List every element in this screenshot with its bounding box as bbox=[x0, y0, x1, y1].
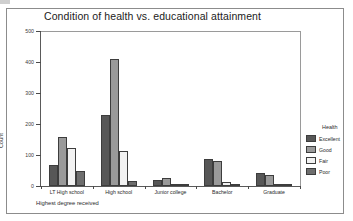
bars-layer bbox=[41, 31, 300, 186]
y-axis-tick-label: 500 bbox=[16, 28, 34, 34]
x-axis-tick bbox=[41, 186, 42, 189]
legend-label: Poor bbox=[319, 169, 330, 175]
bar bbox=[76, 171, 85, 187]
y-axis-tick-label: 100 bbox=[16, 152, 34, 158]
bar bbox=[101, 115, 110, 186]
bar bbox=[265, 175, 274, 186]
y-axis-tick-label: 400 bbox=[16, 59, 34, 65]
chart-title: Condition of health vs. educational atta… bbox=[44, 10, 261, 22]
bar bbox=[67, 148, 76, 186]
x-axis-tick bbox=[248, 186, 249, 189]
legend-swatch bbox=[306, 157, 316, 164]
x-axis-title: Highest degree received bbox=[36, 200, 99, 206]
bar bbox=[222, 182, 231, 186]
bar bbox=[256, 173, 265, 186]
bar bbox=[231, 184, 240, 186]
x-axis-tick bbox=[196, 186, 197, 189]
bar bbox=[283, 184, 292, 186]
bar bbox=[180, 184, 189, 186]
legend-label: Fair bbox=[319, 158, 328, 164]
y-axis-tick-label: 0 bbox=[16, 183, 34, 189]
x-axis-tick bbox=[300, 186, 301, 189]
bar bbox=[128, 181, 137, 186]
bar bbox=[110, 59, 119, 186]
legend-swatch bbox=[306, 135, 316, 142]
x-axis-tick bbox=[93, 186, 94, 189]
y-axis-tick-label: 300 bbox=[16, 90, 34, 96]
bar bbox=[49, 165, 58, 186]
bar bbox=[204, 159, 213, 186]
y-axis-tick-label: 200 bbox=[16, 121, 34, 127]
legend-label: Excellent bbox=[319, 136, 340, 142]
bar bbox=[171, 184, 180, 186]
scan-artifact bbox=[0, 0, 10, 4]
plot-border-right bbox=[300, 31, 301, 187]
x-axis-line bbox=[40, 186, 301, 187]
bar bbox=[274, 184, 283, 186]
bar bbox=[58, 137, 67, 186]
legend-title: Health bbox=[322, 124, 338, 130]
x-axis-tick bbox=[145, 186, 146, 189]
legend-swatch bbox=[306, 168, 316, 175]
legend-label: Good bbox=[319, 147, 332, 153]
y-axis-label: Count bbox=[0, 133, 4, 148]
bar bbox=[153, 180, 162, 186]
bar bbox=[213, 161, 222, 186]
bar bbox=[162, 178, 171, 186]
chart-screenshot: Condition of health vs. educational atta… bbox=[0, 0, 353, 221]
x-axis-group-label: Graduate bbox=[244, 189, 304, 195]
legend-swatch bbox=[306, 146, 316, 153]
bar bbox=[119, 151, 128, 186]
